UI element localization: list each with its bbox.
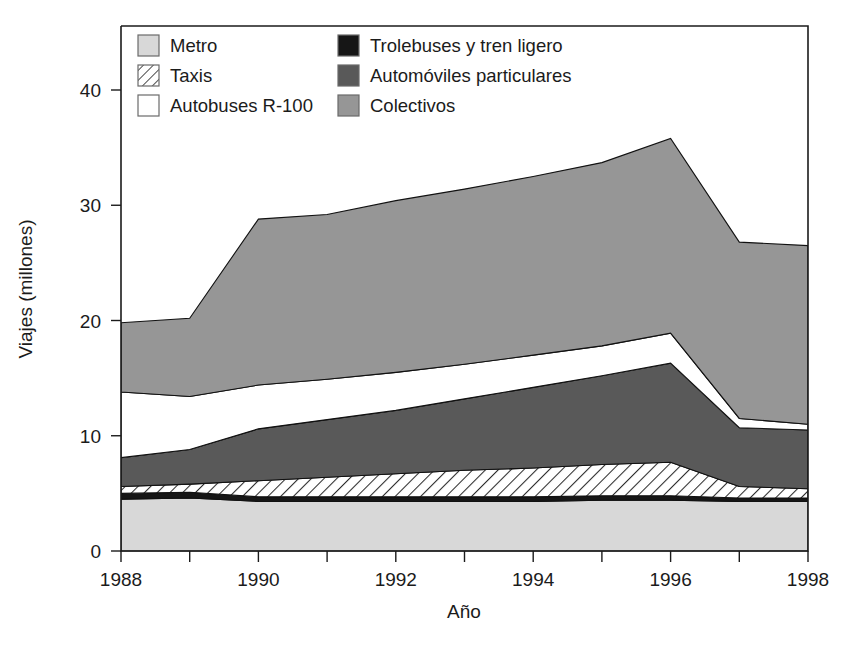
chart-figure: 010203040 198819901992199419961998 Viaje… xyxy=(0,0,850,659)
y-tick-label: 40 xyxy=(80,80,101,101)
y-axis-title: Viajes (millones) xyxy=(15,219,36,358)
y-tick-label: 20 xyxy=(80,311,101,332)
x-tick-label: 1994 xyxy=(512,569,555,590)
legend-item[interactable]: Colectivos xyxy=(338,95,455,116)
legend-label: Trolebuses y tren ligero xyxy=(370,35,563,56)
legend-item[interactable]: Trolebuses y tren ligero xyxy=(338,35,563,56)
legend-label: Taxis xyxy=(170,65,212,86)
legend-swatch-icon xyxy=(338,95,359,116)
legend-label: Colectivos xyxy=(370,95,455,116)
legend-swatch-icon xyxy=(338,35,359,56)
x-tick-label: 1988 xyxy=(100,569,142,590)
x-tick-label: 1992 xyxy=(375,569,417,590)
area-series xyxy=(121,498,808,551)
y-tick-label: 30 xyxy=(80,195,101,216)
legend-swatch-icon xyxy=(138,95,159,116)
legend-item[interactable]: Automóviles particulares xyxy=(338,65,572,86)
legend-item[interactable]: Taxis xyxy=(138,65,212,86)
legend-label: Metro xyxy=(170,35,217,56)
x-tick-label: 1996 xyxy=(649,569,691,590)
legend-swatch-icon xyxy=(138,65,159,86)
stacked-area-chart: 010203040 198819901992199419961998 Viaje… xyxy=(0,0,850,659)
y-tick-label: 0 xyxy=(90,541,101,562)
legend-swatch-icon xyxy=(138,35,159,56)
legend-item[interactable]: Metro xyxy=(138,35,217,56)
x-axis-title: Año xyxy=(447,601,481,622)
x-tick-label: 1990 xyxy=(237,569,279,590)
legend-label: Autobuses R-100 xyxy=(170,95,313,116)
legend-swatch-icon xyxy=(338,65,359,86)
legend-label: Automóviles particulares xyxy=(370,65,572,86)
x-tick-label: 1998 xyxy=(787,569,829,590)
y-tick-label: 10 xyxy=(80,426,101,447)
